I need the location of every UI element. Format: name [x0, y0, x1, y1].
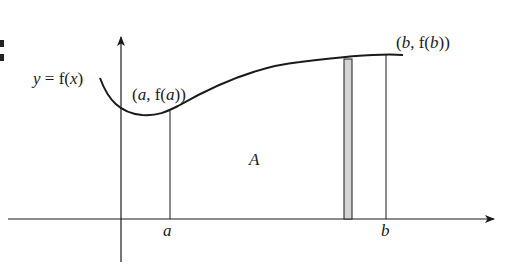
x-tick-a-label: a — [163, 222, 172, 239]
point-a-label: (a, f(a)) — [132, 86, 186, 103]
x-tick-b-label: b — [381, 222, 390, 239]
function-label: y = f(x) — [33, 70, 83, 87]
thin-strip — [344, 59, 352, 219]
area-under-curve-diagram: y = f(x) (a, f(a)) (b, f(b)) A a b — [0, 0, 517, 266]
cropped-margin-mark — [0, 40, 4, 62]
area-label: A — [249, 151, 259, 168]
point-b-label: (b, f(b)) — [396, 34, 450, 51]
